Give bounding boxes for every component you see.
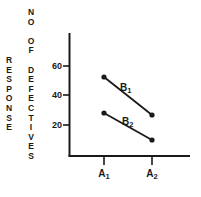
x-tick-label-a1-subscript: 1 [106,172,110,181]
series-b2-point-a1 [101,110,106,115]
x-tick-label-a2: A2 [142,168,162,179]
series-b1-point-a2 [149,112,154,117]
x-tick-label-a1: A1 [94,168,114,179]
series-b1-point-a1 [101,74,106,79]
series-label-b1: B1 [120,82,131,93]
x-tick-label-a2-text: A [146,168,153,179]
series-label-b2-subscript: 2 [129,120,133,129]
chart-container: R E S P O N S E N O O F D E F E C T I V … [0,0,201,197]
series-label-b2: B2 [122,116,133,127]
series-b2-point-a2 [149,137,154,142]
x-tick-label-a2-subscript: 2 [154,172,158,181]
x-tick-label-a1-text: A [98,168,105,179]
series-label-b1-subscript: 1 [127,86,131,95]
x-tick-marks [104,156,152,165]
series-b1 [101,74,154,117]
